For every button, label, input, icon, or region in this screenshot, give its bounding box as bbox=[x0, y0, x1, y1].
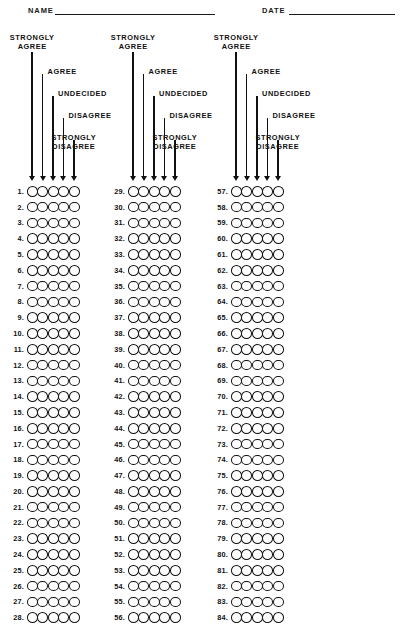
answer-bubble[interactable] bbox=[241, 233, 252, 244]
answer-bubble[interactable] bbox=[159, 218, 170, 229]
answer-bubble[interactable] bbox=[149, 518, 160, 529]
answer-bubble[interactable] bbox=[241, 376, 252, 387]
answer-bubble[interactable] bbox=[58, 360, 69, 371]
answer-bubble[interactable] bbox=[69, 297, 80, 308]
answer-bubble[interactable] bbox=[48, 486, 59, 497]
answer-bubble[interactable] bbox=[231, 328, 242, 339]
answer-bubble[interactable] bbox=[58, 281, 69, 292]
answer-bubble[interactable] bbox=[128, 186, 139, 197]
answer-bubble[interactable] bbox=[58, 202, 69, 213]
answer-bubble[interactable] bbox=[138, 202, 149, 213]
answer-bubble[interactable] bbox=[170, 218, 181, 229]
answer-bubble[interactable] bbox=[128, 344, 139, 355]
answer-bubble[interactable] bbox=[262, 439, 273, 450]
answer-bubble[interactable] bbox=[27, 486, 38, 497]
answer-bubble[interactable] bbox=[128, 455, 139, 466]
answer-bubble[interactable] bbox=[252, 549, 263, 560]
answer-bubble[interactable] bbox=[273, 407, 284, 418]
answer-bubble[interactable] bbox=[48, 312, 59, 323]
answer-bubble[interactable] bbox=[231, 344, 242, 355]
answer-bubble[interactable] bbox=[262, 376, 273, 387]
answer-bubble[interactable] bbox=[241, 218, 252, 229]
answer-bubble[interactable] bbox=[128, 565, 139, 576]
answer-bubble[interactable] bbox=[48, 328, 59, 339]
answer-bubble[interactable] bbox=[138, 186, 149, 197]
answer-bubble[interactable] bbox=[252, 612, 263, 623]
answer-bubble[interactable] bbox=[27, 423, 38, 434]
answer-bubble[interactable] bbox=[252, 470, 263, 481]
answer-bubble[interactable] bbox=[128, 439, 139, 450]
answer-bubble[interactable] bbox=[138, 376, 149, 387]
answer-bubble[interactable] bbox=[128, 407, 139, 418]
answer-bubble[interactable] bbox=[69, 376, 80, 387]
answer-bubble[interactable] bbox=[170, 233, 181, 244]
answer-bubble[interactable] bbox=[58, 565, 69, 576]
answer-bubble[interactable] bbox=[27, 597, 38, 608]
answer-bubble[interactable] bbox=[231, 202, 242, 213]
answer-bubble[interactable] bbox=[48, 297, 59, 308]
answer-bubble[interactable] bbox=[149, 281, 160, 292]
answer-bubble[interactable] bbox=[170, 455, 181, 466]
answer-bubble[interactable] bbox=[241, 265, 252, 276]
answer-bubble[interactable] bbox=[37, 455, 48, 466]
answer-bubble[interactable] bbox=[159, 312, 170, 323]
answer-bubble[interactable] bbox=[149, 297, 160, 308]
answer-bubble[interactable] bbox=[69, 423, 80, 434]
answer-bubble[interactable] bbox=[273, 423, 284, 434]
answer-bubble[interactable] bbox=[159, 202, 170, 213]
answer-bubble[interactable] bbox=[231, 297, 242, 308]
answer-bubble[interactable] bbox=[128, 233, 139, 244]
answer-bubble[interactable] bbox=[69, 486, 80, 497]
answer-bubble[interactable] bbox=[170, 407, 181, 418]
answer-bubble[interactable] bbox=[27, 186, 38, 197]
answer-bubble[interactable] bbox=[149, 502, 160, 513]
answer-bubble[interactable] bbox=[58, 470, 69, 481]
answer-bubble[interactable] bbox=[37, 281, 48, 292]
answer-bubble[interactable] bbox=[170, 518, 181, 529]
answer-bubble[interactable] bbox=[273, 581, 284, 592]
answer-bubble[interactable] bbox=[273, 249, 284, 260]
answer-bubble[interactable] bbox=[27, 518, 38, 529]
answer-bubble[interactable] bbox=[231, 486, 242, 497]
answer-bubble[interactable] bbox=[252, 328, 263, 339]
answer-bubble[interactable] bbox=[69, 281, 80, 292]
answer-bubble[interactable] bbox=[273, 328, 284, 339]
answer-bubble[interactable] bbox=[37, 597, 48, 608]
answer-bubble[interactable] bbox=[241, 297, 252, 308]
answer-bubble[interactable] bbox=[252, 218, 263, 229]
answer-bubble[interactable] bbox=[262, 455, 273, 466]
answer-bubble[interactable] bbox=[252, 518, 263, 529]
answer-bubble[interactable] bbox=[128, 533, 139, 544]
answer-bubble[interactable] bbox=[231, 407, 242, 418]
answer-bubble[interactable] bbox=[48, 470, 59, 481]
answer-bubble[interactable] bbox=[138, 344, 149, 355]
answer-bubble[interactable] bbox=[48, 533, 59, 544]
answer-bubble[interactable] bbox=[37, 249, 48, 260]
answer-bubble[interactable] bbox=[138, 612, 149, 623]
answer-bubble[interactable] bbox=[170, 470, 181, 481]
answer-bubble[interactable] bbox=[273, 202, 284, 213]
answer-bubble[interactable] bbox=[262, 391, 273, 402]
answer-bubble[interactable] bbox=[149, 597, 160, 608]
answer-bubble[interactable] bbox=[252, 533, 263, 544]
answer-bubble[interactable] bbox=[37, 376, 48, 387]
answer-bubble[interactable] bbox=[58, 612, 69, 623]
answer-bubble[interactable] bbox=[170, 376, 181, 387]
answer-bubble[interactable] bbox=[252, 581, 263, 592]
answer-bubble[interactable] bbox=[262, 470, 273, 481]
answer-bubble[interactable] bbox=[273, 502, 284, 513]
answer-bubble[interactable] bbox=[128, 486, 139, 497]
answer-bubble[interactable] bbox=[37, 297, 48, 308]
answer-bubble[interactable] bbox=[37, 502, 48, 513]
answer-bubble[interactable] bbox=[252, 297, 263, 308]
answer-bubble[interactable] bbox=[252, 486, 263, 497]
answer-bubble[interactable] bbox=[241, 281, 252, 292]
answer-bubble[interactable] bbox=[48, 265, 59, 276]
answer-bubble[interactable] bbox=[128, 218, 139, 229]
answer-bubble[interactable] bbox=[241, 486, 252, 497]
answer-bubble[interactable] bbox=[170, 423, 181, 434]
answer-bubble[interactable] bbox=[273, 312, 284, 323]
name-input-line[interactable] bbox=[55, 14, 215, 15]
answer-bubble[interactable] bbox=[37, 565, 48, 576]
answer-bubble[interactable] bbox=[37, 439, 48, 450]
